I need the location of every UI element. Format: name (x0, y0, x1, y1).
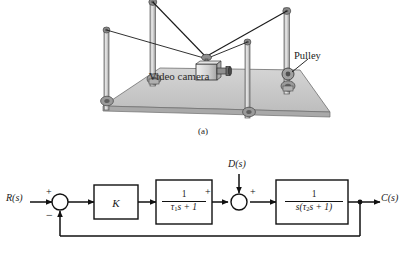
summing-junction-2 (231, 194, 247, 210)
plant-block-2-transfer-function: 1 s(τ2s + 1) (281, 190, 347, 213)
disturbance-signal-label: D(s) (228, 158, 246, 169)
pulley-label: Pulley (294, 50, 321, 61)
plant-block-1-transfer-function: 1 τ1s + 1 (156, 190, 212, 213)
video-camera-label: Video camera (141, 70, 217, 83)
tf1-numerator: 1 (156, 190, 212, 200)
tf1-rest: s + 1 (178, 202, 198, 212)
tf2-numerator: 1 (281, 190, 347, 200)
summer2-top-plus-sign: + (250, 186, 256, 197)
figure-root: Video camera Pulley (a) (0, 0, 406, 254)
summer1-minus-sign: − (46, 208, 53, 223)
output-signal-label: C(s) (381, 192, 398, 203)
tf2-lead: s( (296, 202, 303, 212)
winch-front-left (101, 96, 114, 106)
summer1-plus-sign: + (46, 186, 52, 197)
pulley-callout-target (282, 68, 294, 80)
gain-block-label: K (99, 197, 133, 209)
tf2-rest: s + 1) (309, 202, 332, 212)
camera-lens (217, 68, 227, 74)
pole-front-left (101, 27, 114, 110)
tf1-denominator: τ1s + 1 (156, 203, 212, 213)
support-cables (107, 2, 287, 58)
winch-back-right (281, 81, 295, 91)
winch-front-right (243, 107, 256, 117)
summing-junction-1 (52, 194, 68, 210)
feedback-takeoff-node (358, 200, 363, 205)
tf2-denominator: s(τ2s + 1) (281, 203, 347, 213)
caption-a: (a) (0, 126, 406, 136)
input-signal-label: R(s) (6, 192, 23, 203)
